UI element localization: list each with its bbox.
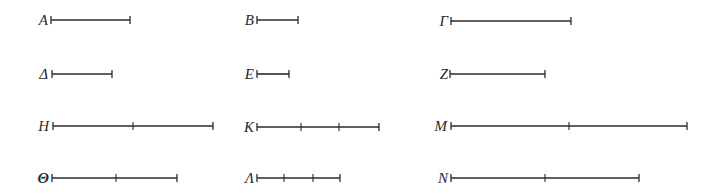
segment-A bbox=[51, 16, 130, 24]
segment-Θ bbox=[52, 174, 177, 182]
segment-label: Δ bbox=[28, 66, 48, 82]
segment-H bbox=[53, 122, 213, 130]
segment-label: E bbox=[234, 66, 254, 82]
segment-Γ bbox=[451, 17, 571, 25]
segment-N bbox=[451, 174, 639, 182]
segment-label: A bbox=[28, 12, 48, 28]
segment-M bbox=[451, 122, 687, 130]
segment-label: H bbox=[29, 118, 49, 134]
segment-K bbox=[257, 123, 379, 131]
segment-Λ bbox=[257, 174, 340, 182]
segment-label: Λ bbox=[234, 170, 254, 186]
segment-label: Z bbox=[428, 66, 448, 82]
segment-Δ bbox=[52, 70, 112, 78]
segment-label: M bbox=[427, 118, 447, 134]
segment-Z bbox=[450, 70, 545, 78]
segment-E bbox=[257, 70, 289, 78]
segment-label: N bbox=[428, 170, 448, 186]
segment-B bbox=[257, 16, 298, 24]
segment-label: Γ bbox=[428, 13, 448, 29]
segment-label: Θ bbox=[29, 170, 49, 186]
segment-label: B bbox=[234, 12, 254, 28]
segment-label: K bbox=[234, 119, 254, 135]
line-segments-diagram bbox=[0, 0, 723, 194]
